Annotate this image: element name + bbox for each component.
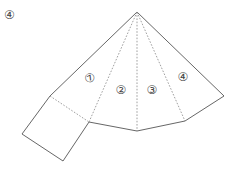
face-label-3: ③ <box>147 83 158 97</box>
figure-number-label: ④ <box>4 8 15 22</box>
fold-lines <box>50 12 185 131</box>
face-label-2: ② <box>116 83 127 97</box>
svg-text:⑦: ⑦ <box>82 69 98 87</box>
face-label-1: ⑦ <box>82 69 98 87</box>
pyramid-net-diagram: ④ ⑦ ② ③ ④ <box>0 0 237 173</box>
face-label-4: ④ <box>178 70 189 84</box>
